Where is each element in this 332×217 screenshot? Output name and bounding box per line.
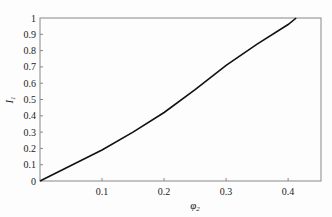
y-tick-label: 0.6 xyxy=(24,78,37,89)
data-line xyxy=(40,18,296,181)
y-tick-label: 0.5 xyxy=(24,94,37,105)
y-tick-label: 0.3 xyxy=(24,127,37,138)
y-tick-label: 1 xyxy=(31,13,36,24)
y-tick-label: 0.1 xyxy=(24,159,37,170)
x-tick-label: 0.2 xyxy=(158,186,171,197)
y-axis-label: I1 xyxy=(3,96,17,104)
y-tick-label: 0.2 xyxy=(24,143,37,154)
y-tick-label: 0.8 xyxy=(24,45,37,56)
y-tick-label: 0.4 xyxy=(24,110,37,121)
chart: 00.10.20.30.40.50.60.70.80.910.10.20.30.… xyxy=(0,0,332,217)
y-tick-label: 0 xyxy=(31,176,36,187)
x-tick-label: 0.1 xyxy=(96,186,109,197)
y-tick-label: 0.9 xyxy=(24,29,37,40)
x-tick-label: 0.4 xyxy=(282,186,295,197)
x-axis-label: φ2 xyxy=(190,199,200,213)
y-tick-label: 0.7 xyxy=(24,61,37,72)
x-tick-label: 0.3 xyxy=(220,186,233,197)
line-chart: 00.10.20.30.40.50.60.70.80.910.10.20.30.… xyxy=(0,0,332,217)
